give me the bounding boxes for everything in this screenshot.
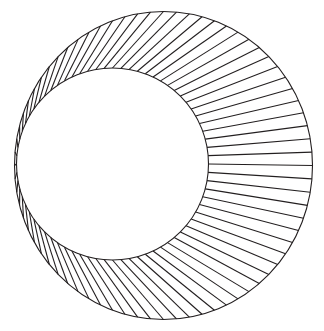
geometric-figure: Tangent circles with radial chord lines	[0, 0, 324, 331]
